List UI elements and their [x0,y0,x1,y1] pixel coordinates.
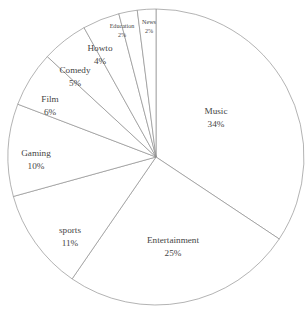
slice-label-name: Education [110,23,135,29]
slice-label-percent: 2% [145,28,153,34]
slice-label-name: Film [41,94,58,104]
slice-label-percent: 6% [44,107,57,117]
slice-label-name: Howto [87,43,112,53]
slice-label-percent: 2% [118,32,126,38]
slice-label-percent: 34% [208,119,225,129]
slice-label-percent: 4% [94,56,107,66]
slice-label-name: Comedy [59,65,91,75]
slice-label-percent: 10% [28,161,45,171]
pie-slices-group [8,9,304,305]
slice-label-name: sports [59,225,81,235]
slice-label-name: Gaming [21,148,51,158]
pie-chart-figure: Music34%Entertainment25%sports11%Gaming1… [0,0,307,313]
pie-chart-canvas: Music34%Entertainment25%sports11%Gaming1… [0,0,307,313]
slice-label-name: Music [205,106,228,116]
slice-label-percent: 5% [69,78,82,88]
slice-label-name: News [142,19,157,25]
slice-label-percent: 11% [62,238,79,248]
slice-label-percent: 25% [165,248,182,258]
slice-label-name: Entertainment [147,235,199,245]
